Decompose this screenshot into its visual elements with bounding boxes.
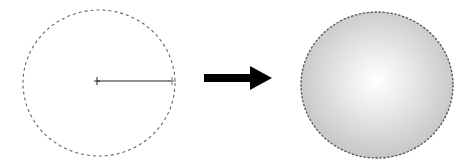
before-step bbox=[23, 10, 176, 156]
gradient-fill bbox=[301, 12, 453, 158]
drag-start-crosshair-icon bbox=[94, 77, 100, 85]
selection-outline-before bbox=[23, 10, 175, 156]
right-arrow-icon bbox=[204, 66, 272, 90]
gradient-diagram bbox=[0, 0, 471, 166]
after-step bbox=[301, 12, 453, 158]
gradient-drag-line[interactable] bbox=[94, 77, 176, 85]
